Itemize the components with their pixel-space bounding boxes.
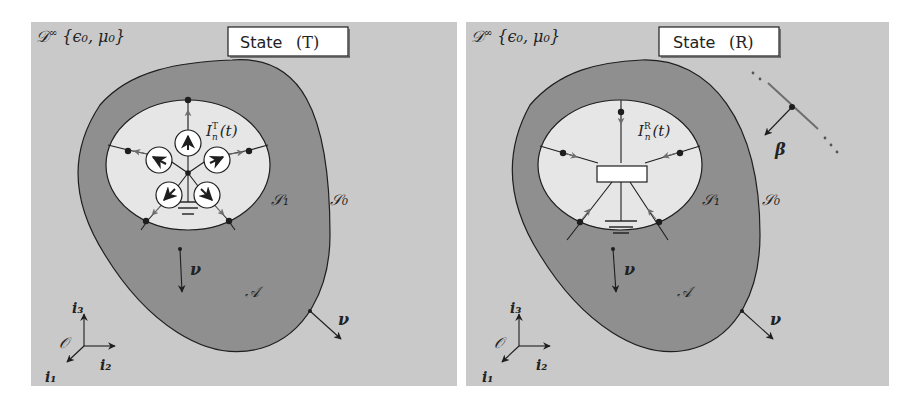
state-label-box: State (R) [659, 27, 781, 57]
current-label: IRn(t) [637, 121, 670, 142]
current-source-up [175, 130, 201, 156]
diagram-canvas: 𝒟∞{ϵ₀, μ₀} State (T) ITn(t) 𝒮₁ 𝒮₀ 𝒜 ν ν … [0, 0, 917, 404]
surface-s1-label: 𝒮₁ [702, 191, 720, 209]
panel-state-r: 𝒟∞{ϵ₀, μ₀} State (R) IRn(t) 𝒮₁ 𝒮₀ 𝒜 ν ν … [466, 22, 889, 386]
surface-s0-label: 𝒮₀ [330, 191, 348, 209]
incident-direction-label: β [774, 140, 786, 159]
normal-label-outer: ν [770, 310, 781, 329]
axis-i1-label: i₁ [482, 369, 493, 385]
load-impedance [597, 166, 647, 182]
current-source-right [204, 147, 230, 173]
axis-i1-label: i₁ [45, 369, 56, 385]
current-source-down-right [194, 182, 220, 208]
axis-i2-label: i₂ [100, 357, 111, 373]
surface-s0-label: 𝒮₀ [762, 191, 780, 209]
cavity-s1 [538, 100, 702, 230]
state-label-value: (T) [296, 33, 319, 52]
normal-label-inner: ν [190, 260, 201, 279]
state-label-box: State (T) [228, 27, 350, 57]
surface-s1-label: 𝒮₁ [271, 191, 289, 209]
axis-i3-label: i₃ [510, 300, 521, 316]
current-source-left [146, 147, 172, 173]
axis-i2-label: i₂ [536, 357, 547, 373]
current-label: ITn(t) [205, 121, 238, 142]
state-label-prefix: State [240, 33, 282, 52]
axis-i3-label: i₃ [72, 300, 83, 316]
current-source-down-left [156, 182, 182, 208]
normal-label-outer: ν [338, 310, 349, 329]
state-label-prefix: State [673, 33, 715, 52]
panel-state-t: 𝒟∞{ϵ₀, μ₀} State (T) ITn(t) 𝒮₁ 𝒮₀ 𝒜 ν ν … [31, 22, 457, 386]
normal-label-inner: ν [624, 260, 635, 279]
state-label-value: (R) [729, 33, 754, 52]
